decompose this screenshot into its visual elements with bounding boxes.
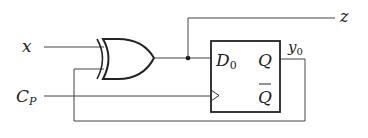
label-clock: CP	[16, 86, 37, 108]
label-y0: y0	[287, 38, 303, 57]
circuit-diagram: x CP z y0 D0 Q Q	[0, 0, 368, 138]
clock-triangle-icon	[211, 90, 219, 101]
label-q: Q	[258, 50, 272, 70]
label-x: x	[22, 36, 32, 56]
label-qbar: Q	[258, 87, 272, 107]
xor-gate	[97, 39, 154, 79]
label-d0: D0	[215, 50, 237, 72]
label-z: z	[339, 7, 349, 26]
